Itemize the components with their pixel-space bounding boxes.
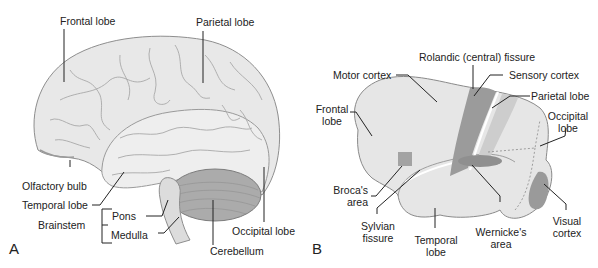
label-pons: Pons <box>112 210 136 222</box>
panel-b-functional-areas: Rolandic (central) fissure Motor cortex … <box>300 0 598 268</box>
label-medulla: Medulla <box>111 229 148 241</box>
label-brocas-area: Broca's area <box>320 184 368 208</box>
label-parietal-lobe-b: Parietal lobe <box>531 90 589 102</box>
cerebellum-shape <box>169 169 261 221</box>
label-rolandic-fissure: Rolandic (central) fissure <box>419 51 535 63</box>
label-brainstem: Brainstem <box>38 219 85 231</box>
brocas-area-region <box>398 152 412 166</box>
label-wernickes-area: Wernicke's area <box>470 226 532 250</box>
label-frontal-lobe: Frontal lobe <box>60 15 115 27</box>
label-visual-cortex: Visual cortex <box>545 215 589 239</box>
label-occipital-lobe-b: Occipital lobe <box>543 110 593 134</box>
label-sensory-cortex: Sensory cortex <box>509 69 579 81</box>
label-frontal-lobe-b: Frontal lobe <box>312 103 352 127</box>
panel-letter-a: A <box>9 240 19 257</box>
label-motor-cortex: Motor cortex <box>333 69 391 81</box>
label-olfactory-bulb: Olfactory bulb <box>22 180 87 192</box>
label-temporal-lobe-b: Temporal lobe <box>408 234 464 258</box>
label-occipital-lobe: Occipital lobe <box>232 225 295 237</box>
wernickes-area-region <box>458 155 502 167</box>
truncated-caption <box>0 262 598 268</box>
label-sylvian-fissure: Sylvian fissure <box>356 220 400 244</box>
panel-letter-b: B <box>312 240 322 257</box>
hemisphere-outline <box>354 76 551 218</box>
panel-a-lateral-brain: Frontal lobe Parietal lobe Olfactory bul… <box>0 0 300 268</box>
label-parietal-lobe: Parietal lobe <box>196 16 254 28</box>
label-temporal-lobe: Temporal lobe <box>22 199 88 211</box>
label-cerebellum: Cerebellum <box>210 245 264 257</box>
